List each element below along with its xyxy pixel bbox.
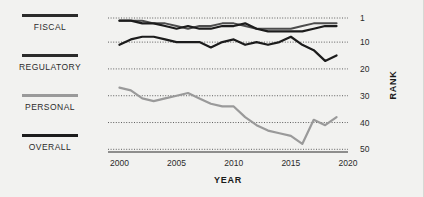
y-tick-10: 10 <box>360 37 370 47</box>
legend-swatch-fiscal <box>22 14 78 17</box>
x-tick-2000: 2000 <box>110 158 129 168</box>
legend-label-fiscal: FISCAL <box>34 22 66 32</box>
series-lines <box>119 21 336 144</box>
legend-label-personal: PERSONAL <box>25 102 75 112</box>
chart-legend: FISCAL REGULATORY PERSONAL OVERALL <box>0 14 100 174</box>
legend-label-overall: OVERALL <box>29 142 71 152</box>
y-tick-30: 30 <box>360 91 370 101</box>
x-axis-title: YEAR <box>214 175 242 185</box>
series-line-personal <box>119 88 336 144</box>
y-axis-tick-labels: 11020304050 <box>360 13 370 154</box>
legend-swatch-regulatory <box>22 54 78 57</box>
legend-label-regulatory: REGULATORY <box>19 62 81 72</box>
y-tick-40: 40 <box>360 118 370 128</box>
series-line-fiscal <box>119 21 336 29</box>
plot-area: 11020304050 20002005201020152020 YEAR RA… <box>100 0 424 197</box>
y-tick-50: 50 <box>360 144 370 154</box>
series-line-regulatory <box>119 37 336 61</box>
legend-swatch-personal <box>22 94 78 97</box>
y-tick-20: 20 <box>360 64 370 74</box>
legend-item-personal[interactable]: PERSONAL <box>0 94 100 134</box>
legend-item-overall[interactable]: OVERALL <box>0 134 100 174</box>
legend-item-fiscal[interactable]: FISCAL <box>0 14 100 54</box>
y-axis-title: RANK <box>388 71 398 100</box>
legend-swatch-overall <box>22 134 78 137</box>
x-tick-2020: 2020 <box>339 158 358 168</box>
chart-frame: FISCAL REGULATORY PERSONAL OVERALL 11020… <box>0 0 424 197</box>
rank-over-time-line-chart: 11020304050 20002005201020152020 YEAR RA… <box>100 0 424 197</box>
x-tick-2005: 2005 <box>167 158 186 168</box>
y-tick-1: 1 <box>360 13 365 23</box>
legend-item-regulatory[interactable]: REGULATORY <box>0 54 100 94</box>
x-axis-tick-labels: 20002005201020152020 <box>110 158 358 168</box>
x-tick-2015: 2015 <box>281 158 300 168</box>
x-tick-2010: 2010 <box>224 158 243 168</box>
